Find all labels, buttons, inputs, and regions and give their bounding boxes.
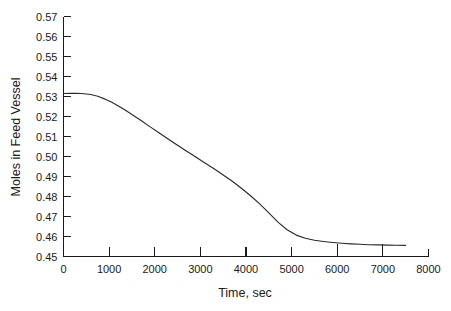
y-tick-label: 0.56 — [36, 31, 57, 43]
y-tick-label: 0.55 — [36, 51, 57, 63]
x-tick-label: 5000 — [279, 263, 303, 275]
line-chart: 0.450.460.470.480.490.500.510.520.530.54… — [0, 0, 451, 311]
x-tick-label: 7000 — [371, 263, 395, 275]
y-tick-label: 0.45 — [36, 251, 57, 263]
x-axis-title: Time, sec — [218, 286, 272, 300]
y-tick-label: 0.52 — [36, 111, 57, 123]
y-tick-label: 0.54 — [36, 71, 57, 83]
y-tick-label: 0.47 — [36, 211, 57, 223]
axis-tick-marks — [64, 17, 429, 257]
x-tick-label: 0 — [60, 263, 66, 275]
x-tick-label: 6000 — [325, 263, 349, 275]
y-tick-label: 0.48 — [36, 191, 57, 203]
y-tick-label: 0.51 — [36, 131, 57, 143]
x-tick-label: 1000 — [97, 263, 121, 275]
x-tick-label: 3000 — [188, 263, 212, 275]
chart-figure: 0.450.460.470.480.490.500.510.520.530.54… — [0, 0, 451, 311]
y-tick-label: 0.57 — [36, 11, 57, 23]
x-tick-label: 8000 — [416, 263, 440, 275]
y-tick-label: 0.49 — [36, 171, 57, 183]
data-series-line — [64, 93, 406, 245]
y-tick-label: 0.53 — [36, 91, 57, 103]
y-tick-label: 0.46 — [36, 231, 57, 243]
y-axis-tick-labels: 0.450.460.470.480.490.500.510.520.530.54… — [36, 11, 57, 263]
axis-lines — [64, 17, 429, 257]
x-tick-label: 2000 — [143, 263, 167, 275]
y-tick-label: 0.50 — [36, 151, 57, 163]
x-tick-label: 4000 — [234, 263, 258, 275]
x-axis-tick-labels: 010002000300040005000600070008000 — [60, 263, 440, 275]
y-axis-title: Moles in Feed Vessel — [9, 78, 23, 197]
